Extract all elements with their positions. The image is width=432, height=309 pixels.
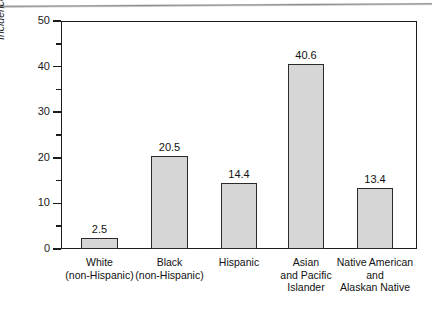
bar-value-label-4: 13.4 [337, 173, 413, 186]
x-axis-label-line: and [315, 269, 432, 282]
bar-0 [81, 238, 118, 249]
x-axis-label-line: Alaskan Native [315, 281, 432, 294]
bar-3 [288, 64, 324, 249]
x-axis-label-4: Native AmericanandAlaskan Native [315, 256, 432, 294]
bar-value-label-3: 40.6 [268, 49, 344, 62]
bar-value-label-1: 20.5 [131, 141, 208, 154]
x-axis-label-line: (non-Hispanic) [110, 269, 230, 282]
incidence-bar-chart-figure: Incidence (per 100,000 person-years) 010… [0, 0, 432, 309]
bar-2 [221, 183, 257, 249]
bar-4 [357, 188, 393, 249]
bar-value-label-2: 14.4 [201, 168, 277, 181]
x-axis-label-line: Native American [315, 256, 432, 269]
bar-value-label-0: 2.5 [61, 223, 138, 236]
bar-1 [151, 156, 188, 249]
